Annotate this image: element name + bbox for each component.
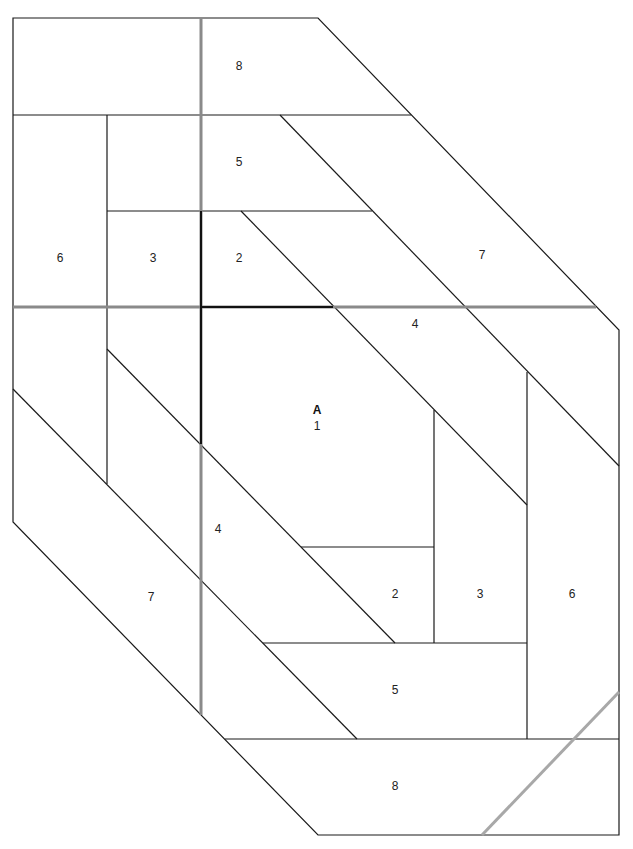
piece-label: 4	[215, 522, 222, 536]
diag-4	[13, 389, 357, 739]
piece-label: 5	[392, 683, 399, 697]
piece-label: 8	[392, 779, 399, 793]
piece-label: 4	[412, 317, 419, 331]
piece-label: 8	[236, 59, 243, 73]
piece-label: 2	[236, 251, 243, 265]
piece-label: 2	[392, 587, 399, 601]
piece-label: 6	[57, 251, 64, 265]
section-label: A	[313, 403, 322, 417]
quilt-pattern-diagram: 8 5 6 3 2 7 4 A 1 4 7 2 3 6 5 8	[0, 0, 633, 849]
piece-label: 3	[477, 587, 484, 601]
seam-diagonal	[482, 692, 619, 835]
piece-label: 1	[314, 419, 321, 433]
piece-label: 7	[479, 248, 486, 262]
piece-label: 3	[150, 251, 157, 265]
piece-label: 6	[569, 587, 576, 601]
piece-label: 5	[236, 155, 243, 169]
piece-label: 7	[148, 590, 155, 604]
diag-1	[280, 115, 619, 466]
